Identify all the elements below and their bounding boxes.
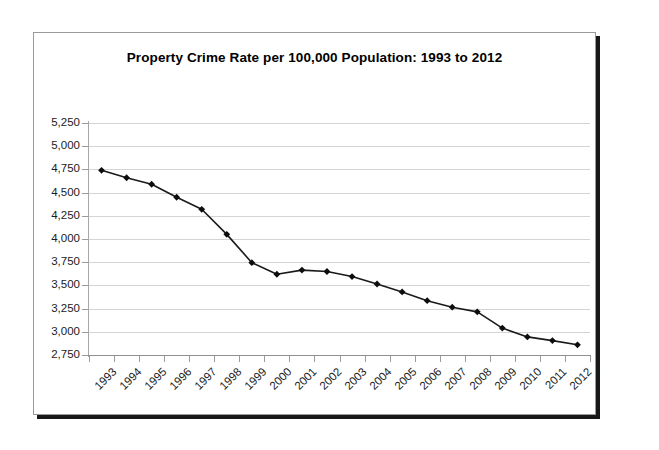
y-axis-tick <box>82 309 88 310</box>
y-axis-tick <box>82 332 88 333</box>
x-axis-tick <box>565 356 566 362</box>
x-axis-tick <box>164 356 165 362</box>
y-axis-tick-label: 4,250 <box>34 210 80 222</box>
gridline <box>89 146 590 147</box>
y-axis-tick-label: 5,000 <box>34 140 80 152</box>
gridline <box>89 332 590 333</box>
gridline <box>89 169 590 170</box>
x-axis-tick <box>440 356 441 362</box>
y-axis-tick-label: 5,250 <box>34 117 80 129</box>
y-axis-tick-labels: 2,7503,0003,2503,5003,7504,0004,2504,500… <box>34 0 80 450</box>
x-axis-tick <box>540 356 541 362</box>
x-axis-tick <box>365 356 366 362</box>
y-axis-tick-label: 3,000 <box>34 326 80 338</box>
y-axis-tick <box>82 146 88 147</box>
y-axis-tick <box>82 285 88 286</box>
gridline <box>89 239 590 240</box>
x-axis-tick <box>314 356 315 362</box>
x-axis-tick <box>214 356 215 362</box>
y-axis-tick <box>82 123 88 124</box>
y-axis-tick-label: 3,500 <box>34 279 80 291</box>
x-axis-tick <box>139 356 140 362</box>
y-axis-tick <box>82 216 88 217</box>
y-axis-tick <box>82 355 88 356</box>
y-axis-line <box>88 121 89 357</box>
x-axis-tick <box>490 356 491 362</box>
x-axis-tick <box>239 356 240 362</box>
x-axis-tick <box>340 356 341 362</box>
x-axis-tick <box>515 356 516 362</box>
y-axis-tick <box>82 239 88 240</box>
y-axis-tick <box>82 193 88 194</box>
x-axis-tick <box>415 356 416 362</box>
y-axis-tick-label: 4,750 <box>34 163 80 175</box>
x-axis-tick <box>264 356 265 362</box>
y-axis-tick <box>82 169 88 170</box>
y-axis-tick-label: 3,750 <box>34 256 80 268</box>
frame-shadow-right <box>596 36 600 419</box>
x-axis-tick <box>189 356 190 362</box>
y-axis-tick-label: 2,750 <box>34 349 80 361</box>
gridline <box>89 285 590 286</box>
x-axis-tick <box>390 356 391 362</box>
chart-title: Property Crime Rate per 100,000 Populati… <box>33 50 596 65</box>
frame-shadow-bottom <box>37 415 600 419</box>
gridline <box>89 216 590 217</box>
x-axis-tick <box>289 356 290 362</box>
x-axis-tick <box>590 356 591 362</box>
gridline <box>89 309 590 310</box>
y-axis-tick-label: 4,000 <box>34 233 80 245</box>
plot-area <box>89 123 590 355</box>
gridline <box>89 123 590 124</box>
chart-page: Property Crime Rate per 100,000 Populati… <box>0 0 659 450</box>
x-axis-tick <box>89 356 90 362</box>
y-axis-tick-label: 4,500 <box>34 187 80 199</box>
y-axis-tick <box>82 262 88 263</box>
x-axis-tick <box>465 356 466 362</box>
x-axis-tick <box>114 356 115 362</box>
y-axis-tick-label: 3,250 <box>34 303 80 315</box>
gridline <box>89 193 590 194</box>
gridline <box>89 262 590 263</box>
